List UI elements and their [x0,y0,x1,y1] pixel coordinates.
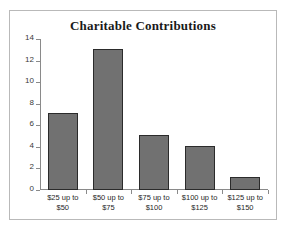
y-tick-label: 4 [30,141,34,150]
plot-area: 02468101214 [40,39,268,190]
bar [93,49,123,190]
y-tick-mark [36,190,40,191]
x-axis-label: $100 up to $125 [177,193,223,213]
y-tick-label: 0 [30,184,34,193]
bar-series [40,39,268,190]
bar [48,113,78,190]
y-tick-label: 12 [25,55,34,64]
bar [230,177,260,190]
y-tick-label: 8 [30,98,34,107]
y-tick-label: 14 [25,33,34,42]
bar [139,135,169,190]
x-axis-label: $25 up to $50 [40,193,86,213]
y-tick-label: 2 [30,162,34,171]
x-tick-mark [268,190,269,194]
y-tick-label: 6 [30,119,34,128]
x-axis-labels: $25 up to $50$50 up to $75$75 up to $100… [40,193,268,219]
x-axis-label: $50 up to $75 [86,193,132,213]
chart-title: Charitable Contributions [10,18,276,34]
x-axis-label: $75 up to $100 [131,193,177,213]
chart-frame: Charitable Contributions 02468101214 $25… [9,10,277,220]
bar [185,146,215,190]
x-axis-label: $125 up to $150 [222,193,268,213]
y-tick-label: 10 [25,76,34,85]
